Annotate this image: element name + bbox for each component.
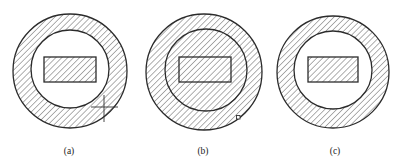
- panel-b: (b): [146, 14, 262, 157]
- panel-label-a: (a): [64, 146, 75, 157]
- rect-hatch-a: [44, 57, 96, 82]
- small-square-marker: [237, 116, 241, 120]
- panel-a: (a): [0, 0, 140, 157]
- panel-label-b: (b): [197, 146, 208, 157]
- hatched-sections-diagram: (a) (b) (c): [0, 0, 403, 167]
- panel-c: (c): [270, 0, 403, 157]
- rect-hatch-c: [308, 57, 358, 82]
- panel-label-c: (c): [330, 146, 341, 157]
